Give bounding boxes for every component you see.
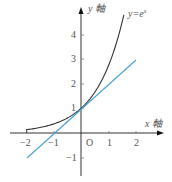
y-tick-label-4: 4 (71, 30, 76, 40)
y-tick-label-m1: −1 (66, 153, 77, 163)
chart-canvas (0, 0, 172, 182)
origin-label: O (86, 138, 93, 148)
x-tick-label-m1: −1 (48, 138, 59, 148)
x-axis-label: x 軸 (145, 119, 162, 129)
x-tick-label-m2: −2 (20, 138, 31, 148)
x-tick-label-2: 2 (134, 138, 139, 148)
y-tick-label-2: 2 (71, 79, 76, 89)
y-axis-arrow-icon (79, 7, 84, 14)
y-tick-label-1: 1 (71, 103, 76, 113)
y-axis-label-text: y 軸 (88, 3, 105, 14)
x-tick-label-1: 1 (107, 138, 112, 148)
curve-label-exponent: x (144, 8, 147, 14)
curve-label: y=ex (128, 8, 146, 19)
x-axis-label-text: x 軸 (145, 118, 162, 129)
x-axis-arrow-icon (157, 131, 164, 136)
y-tick-label-3: 3 (71, 54, 76, 64)
y-axis-label: y 軸 (88, 4, 105, 14)
curve-label-text: y=e (128, 8, 144, 19)
